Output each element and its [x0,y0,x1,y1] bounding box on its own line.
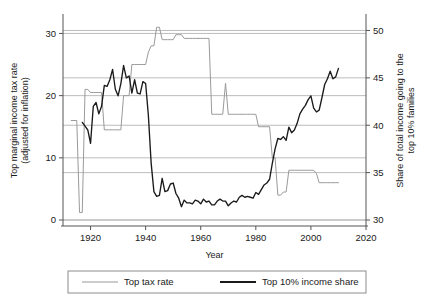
tick-label-x-1920: 1920 [80,232,101,243]
legend-label-1: Top 10% income share [262,276,359,287]
legend-label-0: Top tax rate [124,276,174,287]
y-axis-left-title-line1: Top marginal income tax rate [9,63,19,179]
tick-label-right-35: 35 [373,167,384,178]
y-axis-right-title-line1: Share of total income going to the [395,53,405,188]
tick-label-x-1980: 1980 [245,232,266,243]
tick-label-x-1940: 1940 [135,232,156,243]
x-axis-title: Year [205,250,223,260]
tick-label-left-10: 10 [45,152,56,163]
tick-label-x-2020: 2020 [355,232,376,243]
y-axis-left-title-line2: (adjusted for inflation) [20,77,30,164]
tick-label-left-20: 20 [45,90,56,101]
tick-label-right-40: 40 [373,120,384,131]
tick-label-right-50: 50 [373,25,384,36]
tick-label-right-30: 30 [373,214,384,225]
tick-label-left-30: 30 [45,28,56,39]
tick-label-x-2000: 2000 [300,232,321,243]
tick-label-right-45: 45 [373,72,384,83]
tick-label-x-1960: 1960 [190,232,211,243]
y-axis-right-title-line2: top 10% families [406,87,416,154]
tick-label-left-0: 0 [51,214,56,225]
chart-container: 0102030303540455019201940196019802000202… [0,0,431,301]
dual-axis-line-chart: 0102030303540455019201940196019802000202… [0,0,431,301]
